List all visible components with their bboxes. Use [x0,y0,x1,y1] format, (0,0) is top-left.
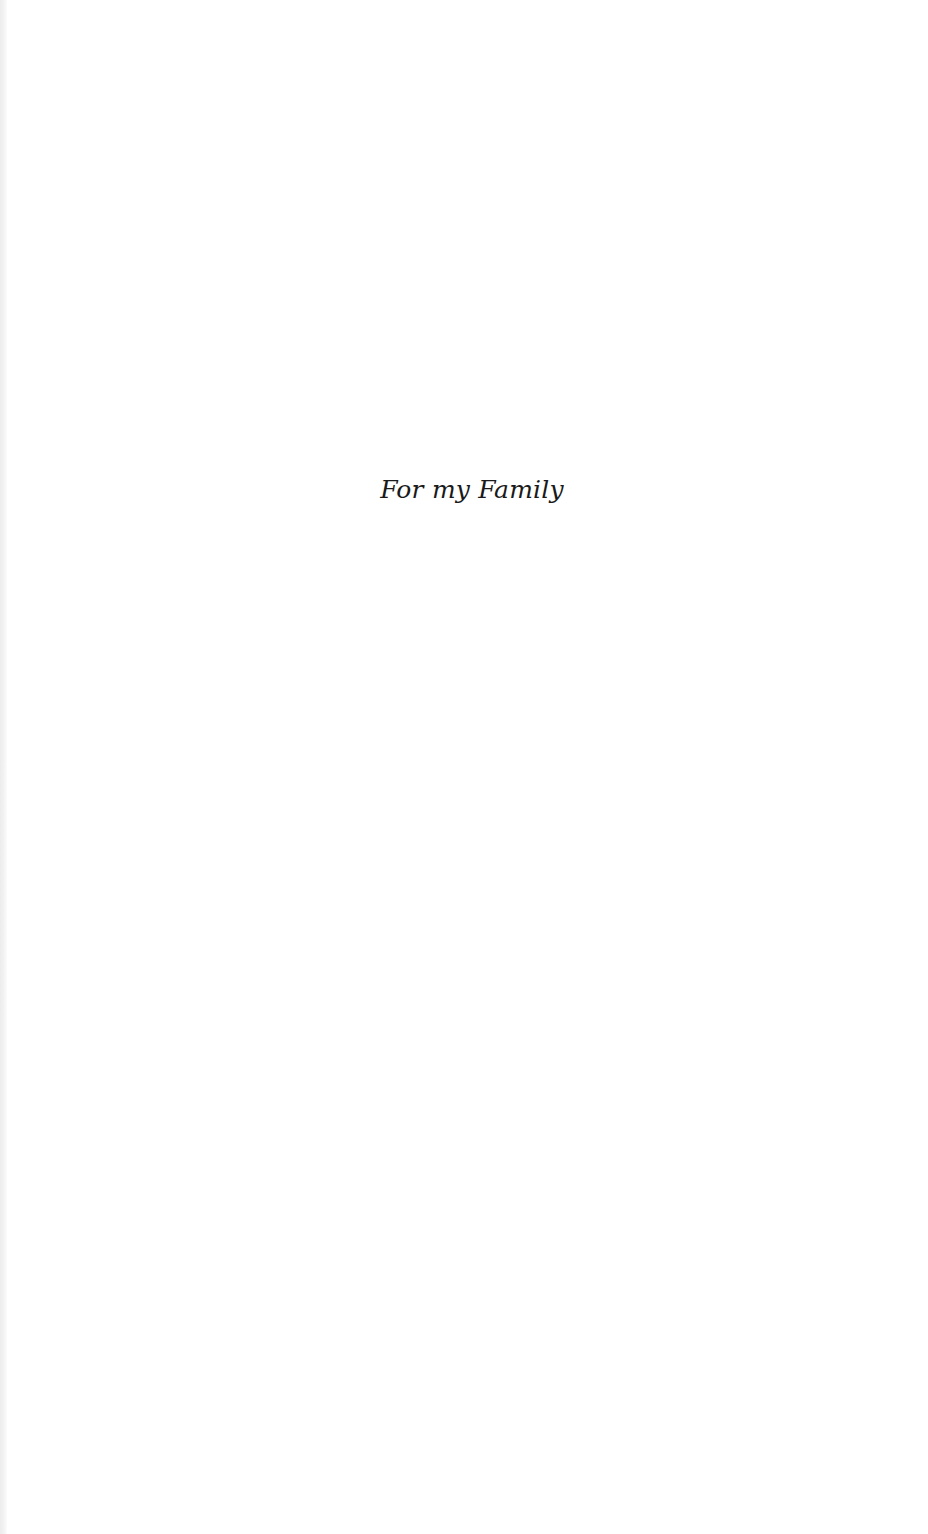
dedication-text: For my Family [0,472,928,508]
book-page: For my Family [0,0,928,1534]
page-gutter-shadow [0,0,7,1534]
